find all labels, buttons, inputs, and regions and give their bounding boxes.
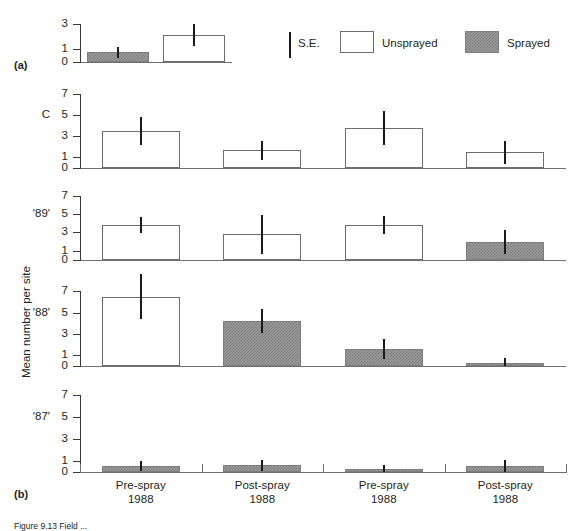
panel-label-a: (a) — [14, 59, 27, 71]
legend-unsprayed-swatch — [340, 31, 374, 53]
x-tick-mark — [323, 464, 324, 473]
y-axis-title: Mean number per site — [20, 266, 32, 378]
x-axis-label-line2: 1988 — [324, 492, 444, 506]
x-axis-label-line2: 1988 — [202, 492, 322, 506]
x-axis-label-3: Post-spray1988 — [445, 478, 565, 507]
legend-se-icon — [289, 32, 291, 58]
x-axis-label-line2: 1988 — [445, 492, 565, 506]
x-axis-label-2: Pre-spray1988 — [324, 478, 444, 507]
legend-se-label: S.E. — [298, 37, 320, 49]
figure-caption: Figure 9.13 Field ... — [14, 521, 414, 531]
chart-legend: S.E.UnsprayedSprayed — [0, 0, 573, 80]
legend-sprayed-swatch — [465, 31, 499, 53]
x-tick-mark — [445, 464, 446, 473]
panel-label-b: (b) — [14, 488, 28, 500]
x-axis-label-line1: Pre-spray — [324, 478, 444, 492]
x-axis-label-line2: 1988 — [81, 492, 201, 506]
x-tick-mark — [202, 464, 203, 473]
x-tick-mark — [80, 464, 81, 473]
x-axis-label-1: Post-spray1988 — [202, 478, 322, 507]
x-axis-label-line1: Post-spray — [445, 478, 565, 492]
legend-unsprayed-label: Unsprayed — [382, 37, 438, 49]
x-axis-label-line1: Post-spray — [202, 478, 322, 492]
x-tick-mark — [566, 464, 567, 473]
x-axis-label-0: Pre-spray1988 — [81, 478, 201, 507]
x-axis-label-line1: Pre-spray — [81, 478, 201, 492]
legend-sprayed-label: Sprayed — [507, 37, 550, 49]
